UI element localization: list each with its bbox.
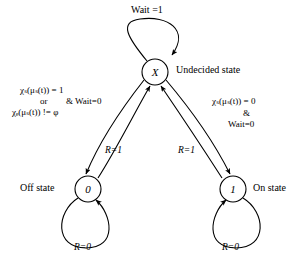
edge-undecided-to-off: [86, 80, 144, 174]
state-label-off: 0: [85, 183, 91, 195]
state-diagram-canvas: X 0 1: [0, 0, 306, 260]
self-loop-undecided: [127, 18, 178, 61]
guard-undecided-to-on-wait: Wait=0: [228, 120, 254, 129]
guard-undecided-to-off-line1: χₛ(μₛ(t)) = 1: [20, 86, 63, 95]
guard-undecided-to-off-line3: χₑ(μₛ(t)) != φ: [12, 108, 58, 117]
state-node-undecided[interactable]: X: [142, 59, 168, 85]
label-r1-left: R=1: [105, 146, 122, 156]
state-node-on[interactable]: 1: [220, 176, 246, 202]
guard-undecided-to-on-amp: &: [243, 109, 250, 118]
guard-undecided-to-off-or: or: [40, 97, 48, 106]
edge-undecided-to-on: [166, 80, 230, 174]
self-loop-off: [62, 198, 109, 248]
label-r0-right: R=0: [222, 243, 239, 253]
guard-undecided-to-off-wait: & Wait=0: [66, 97, 101, 106]
self-loop-on: [213, 198, 260, 248]
state-label-undecided: X: [151, 66, 160, 78]
state-node-off[interactable]: 0: [75, 176, 101, 202]
caption-off-state: Off state: [20, 183, 55, 194]
label-wait-loop: Wait =1: [131, 5, 163, 16]
caption-undecided-state: Undecided state: [176, 65, 240, 76]
edge-off-to-undecided: [98, 86, 150, 178]
guard-undecided-to-on-line1: χₛ(μₛ(t)) = 0: [212, 97, 255, 106]
caption-on-state: On state: [253, 183, 286, 194]
label-r0-left: R=0: [74, 243, 91, 253]
label-r1-right: R=1: [178, 146, 195, 156]
state-label-on: 1: [230, 183, 236, 195]
